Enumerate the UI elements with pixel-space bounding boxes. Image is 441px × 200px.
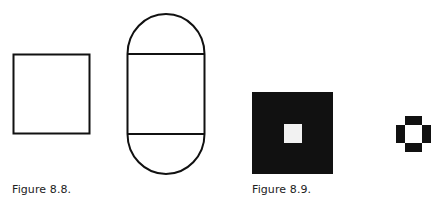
outlined-square	[14, 55, 90, 134]
capsule-outline	[128, 14, 205, 174]
figure-canvas	[0, 0, 441, 200]
figure-8-9	[252, 92, 431, 174]
pixel-ring	[396, 116, 431, 152]
figure-8-8-caption: Figure 8.8.	[12, 183, 71, 196]
white-center-square	[284, 124, 302, 143]
figure-8-9-caption: Figure 8.9.	[252, 183, 311, 196]
figure-8-8	[14, 14, 205, 174]
